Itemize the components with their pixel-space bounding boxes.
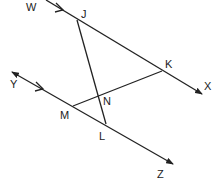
- line-wx: [46, 0, 202, 94]
- label-y: Y: [10, 78, 18, 90]
- label-l: L: [99, 130, 105, 142]
- segment-jl: [77, 20, 106, 124]
- label-j: J: [81, 8, 87, 20]
- label-x: X: [204, 80, 212, 92]
- label-n: N: [103, 95, 111, 107]
- label-m: M: [60, 109, 69, 121]
- segment-mk: [73, 71, 162, 106]
- label-w: W: [26, 1, 37, 13]
- label-z: Z: [157, 168, 164, 180]
- geometry-diagram: W J K X Y N M L Z: [0, 0, 218, 184]
- line-yz: [12, 72, 173, 164]
- label-k: K: [165, 58, 173, 70]
